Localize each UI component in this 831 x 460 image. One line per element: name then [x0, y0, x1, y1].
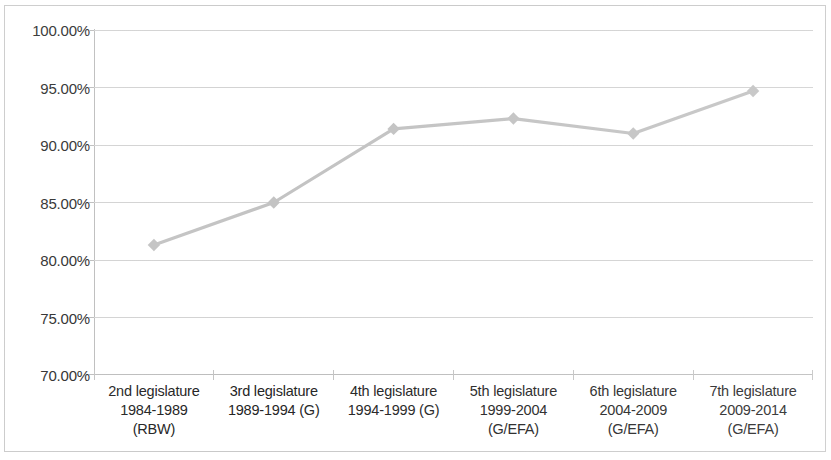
x-axis-category-label: 2nd legislature 1984-1989 (RBW) [94, 382, 214, 439]
x-axis-labels: 2nd legislature 1984-1989 (RBW) 3rd legi… [94, 382, 813, 439]
data-series-line [94, 30, 813, 375]
data-point-marker [507, 112, 519, 124]
y-axis-tick-label: 80.00% [4, 252, 90, 269]
y-axis-tick-label: 85.00% [4, 194, 90, 211]
y-axis-tick-label: 90.00% [4, 137, 90, 154]
x-axis-category-label: 4th legislature 1994-1999 (G) [334, 382, 454, 439]
data-point-marker [747, 85, 759, 97]
y-axis-tick-label: 95.00% [4, 79, 90, 96]
y-axis-tick-label: 70.00% [4, 367, 90, 384]
chart-frame: 100.00% 95.00% 90.00% 85.00% 80.00% 75.0… [4, 5, 826, 452]
data-point-marker [627, 127, 639, 139]
x-axis-category-label: 5th legislature 1999-2004 (G/EFA) [453, 382, 573, 439]
y-axis-tick-label: 100.00% [4, 22, 90, 39]
y-axis-labels: 100.00% 95.00% 90.00% 85.00% 80.00% 75.0… [5, 30, 90, 375]
y-axis-tick-label: 75.00% [4, 309, 90, 326]
data-point-marker [148, 239, 160, 251]
series-markers [148, 85, 760, 252]
x-axis-category-label: 3rd legislature 1989-1994 (G) [214, 382, 334, 439]
x-axis-category-label: 7th legislature 2009-2014 (G/EFA) [693, 382, 813, 439]
plot-area [94, 30, 813, 375]
x-axis-category-label: 6th legislature 2004-2009 (G/EFA) [573, 382, 693, 439]
series-polyline [154, 91, 753, 245]
